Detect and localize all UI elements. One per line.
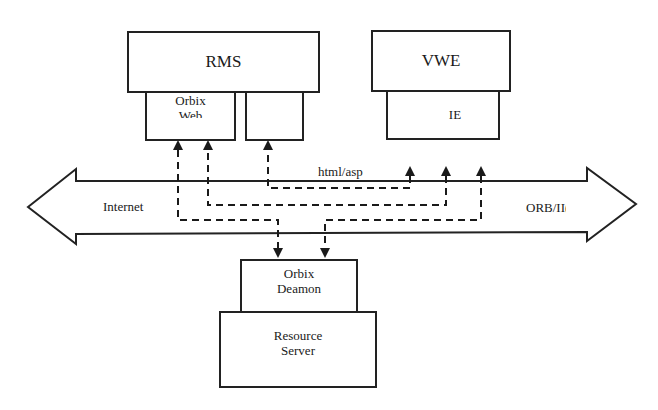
server-line2: Server — [219, 344, 377, 359]
arrowhead-up-icon — [173, 140, 183, 150]
orbix-web-label: Orbix Web — [145, 94, 236, 118]
resource-server-label: Resource Server — [219, 329, 377, 359]
server-line1: Resource — [219, 329, 377, 344]
rms-title: RMS — [127, 52, 320, 72]
orbix-web-line1: Orbix — [145, 94, 236, 109]
internet-label: Internet — [103, 200, 143, 215]
arrowhead-up-icon — [405, 166, 415, 176]
arrowhead-down-icon — [320, 248, 330, 258]
orb-iiop-label: ORB/II( — [526, 201, 566, 216]
orbix-web-line2: Web — [145, 109, 236, 118]
arrowhead-up-icon — [441, 166, 451, 176]
rms-secondary-box — [245, 91, 304, 141]
ie-label: IE — [410, 108, 500, 123]
arrowhead-up-icon — [203, 140, 213, 150]
html-asp-label: html/asp — [318, 165, 363, 180]
vwe-title: VWE — [371, 51, 511, 71]
orbix-daemon-label: Orbix Deamon — [240, 267, 358, 297]
daemon-line1: Orbix — [240, 267, 358, 282]
arrowhead-down-icon — [273, 248, 283, 258]
daemon-line2: Deamon — [240, 282, 358, 297]
arrowhead-up-icon — [263, 140, 273, 150]
arrowhead-up-icon — [476, 166, 486, 176]
